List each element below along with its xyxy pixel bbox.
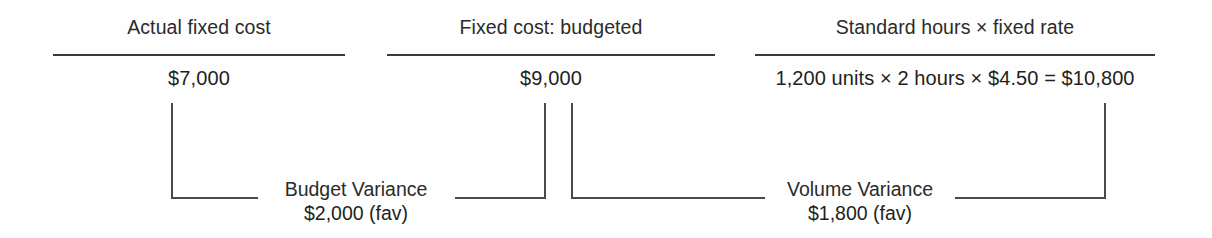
column-rule-standard-hours-fixed-rate xyxy=(755,54,1155,56)
budget-variance-right-leg xyxy=(544,103,546,199)
column-value-actual-fixed-cost: $7,000 xyxy=(53,68,345,88)
budget-variance-left-arm xyxy=(171,197,258,199)
fixed-overhead-variance-diagram: Actual fixed cost $7,000 Fixed cost: bud… xyxy=(0,0,1212,238)
column-value-standard-hours-fixed-rate: 1,200 units × 2 hours × $4.50 = $10,800 xyxy=(747,68,1163,88)
volume-variance-right-leg xyxy=(1104,103,1106,199)
column-value-fixed-cost-budgeted: $9,000 xyxy=(387,68,715,88)
column-title-standard-hours-fixed-rate: Standard hours × fixed rate xyxy=(755,18,1155,38)
column-title-actual-fixed-cost: Actual fixed cost xyxy=(53,18,345,38)
budget-variance-left-leg xyxy=(171,103,173,199)
volume-variance-left-leg xyxy=(571,103,573,199)
budget-variance-right-arm xyxy=(455,197,546,199)
column-rule-actual-fixed-cost xyxy=(53,54,345,56)
volume-variance-label: Volume Variance $1,800 (fav) xyxy=(762,178,958,226)
column-rule-fixed-cost-budgeted xyxy=(387,54,715,56)
column-title-fixed-cost-budgeted: Fixed cost: budgeted xyxy=(387,18,715,38)
budget-variance-amount: $2,000 (fav) xyxy=(257,202,455,226)
budget-variance-label: Budget Variance $2,000 (fav) xyxy=(257,178,455,226)
volume-variance-right-arm xyxy=(955,197,1106,199)
volume-variance-left-arm xyxy=(571,197,765,199)
volume-variance-name: Volume Variance xyxy=(762,178,958,202)
volume-variance-amount: $1,800 (fav) xyxy=(762,202,958,226)
budget-variance-name: Budget Variance xyxy=(257,178,455,202)
